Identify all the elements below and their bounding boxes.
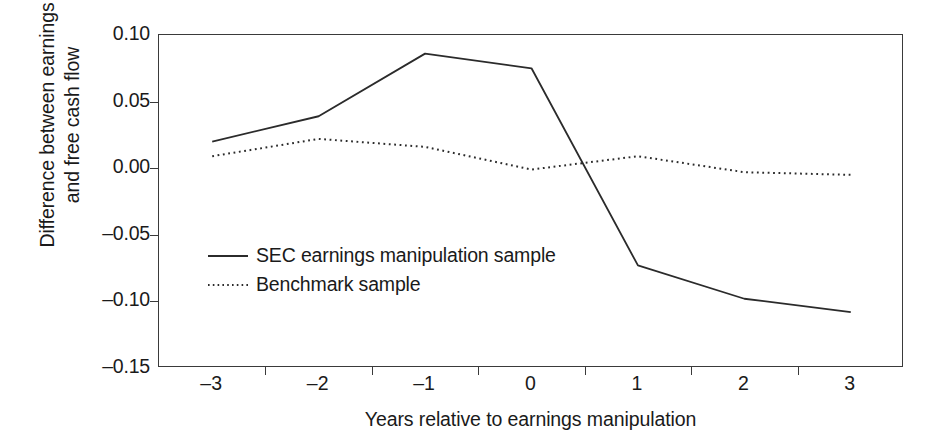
legend-solid-line-icon — [208, 250, 248, 262]
y-axis-tick-label: 0.00 — [66, 157, 150, 177]
y-axis-title-line-1: Difference between earnings — [35, 2, 60, 247]
y-axis-tick-label: 0.10 — [66, 24, 150, 44]
series-line-dotted — [212, 139, 851, 175]
y-axis-tick — [150, 301, 159, 302]
y-axis-tick-labels: 0.100.050.00–0.05–0.10–0.15 — [58, 0, 150, 442]
x-axis-tick-label: –3 — [181, 374, 241, 394]
legend-dotted-line-icon — [208, 279, 248, 291]
y-axis-tick — [150, 235, 159, 236]
legend-item-benchmark-sample: Benchmark sample — [208, 272, 556, 297]
y-axis-tick — [150, 102, 159, 103]
x-axis-tick-label: 2 — [713, 374, 773, 394]
y-axis-tick-label: –0.05 — [66, 224, 150, 244]
x-axis-title: Years relative to earnings manipulation — [158, 408, 903, 431]
y-axis-tick-label: 0.05 — [66, 91, 150, 111]
x-axis-tick-labels: –3–2–10123 — [158, 374, 903, 400]
y-axis-tick — [150, 168, 159, 169]
x-axis-tick-label: 0 — [501, 374, 561, 394]
y-axis-tick-label: –0.10 — [66, 290, 150, 310]
x-axis-tick-label: –1 — [394, 374, 454, 394]
plot-area — [158, 34, 903, 367]
y-axis-tick-label: –0.15 — [66, 357, 150, 377]
chart-figure: Difference between earnings and free cas… — [0, 0, 938, 442]
legend-label-sec-sample: SEC earnings manipulation sample — [256, 246, 556, 266]
x-axis-tick-label: 3 — [820, 374, 880, 394]
plot-lines — [159, 35, 904, 368]
x-axis-tick-label: –2 — [288, 374, 348, 394]
legend-label-benchmark-sample: Benchmark sample — [256, 275, 421, 295]
chart-legend: SEC earnings manipulation sample Benchma… — [208, 243, 556, 297]
x-axis-tick-label: 1 — [607, 374, 667, 394]
legend-item-sec-sample: SEC earnings manipulation sample — [208, 243, 556, 268]
